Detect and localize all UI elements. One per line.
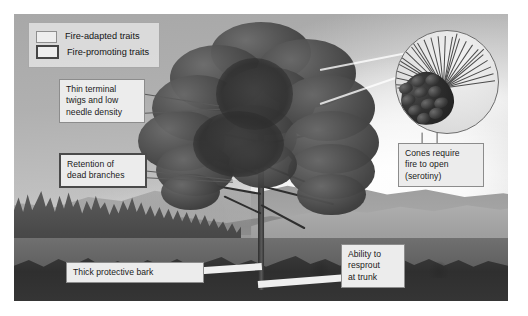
callout-thick-protective-bark[interactable]: Thick protective bark (66, 262, 204, 283)
callout-retention-dead-branches[interactable]: Retention of dead branches (59, 153, 147, 188)
legend-label-fire-adapted: Fire-adapted traits (65, 31, 140, 42)
callout-thin-terminal-twigs[interactable]: Thin terminal twigs and low needle densi… (59, 79, 145, 123)
pine-cone-magnifier (395, 30, 499, 134)
dead-branch (224, 195, 262, 214)
callout-cones-serotiny[interactable]: Cones require fire to open (serotiny) (398, 143, 484, 187)
legend: Fire-adapted traits Fire-promoting trait… (28, 22, 160, 68)
legend-swatch-fire-adapted (36, 31, 57, 43)
callout-resprout-at-trunk[interactable]: Ability to resprout at trunk (341, 244, 405, 288)
legend-item-fire-adapted: Fire-adapted traits (36, 31, 149, 43)
legend-item-fire-promoting: Fire-promoting traits (36, 45, 149, 59)
dead-branch (261, 204, 306, 229)
legend-swatch-fire-promoting (36, 45, 59, 59)
crown-foliage-lower (297, 174, 365, 215)
legend-label-fire-promoting: Fire-promoting traits (67, 47, 149, 58)
figure-root: Thin terminal twigs and low needle densi… (0, 0, 528, 316)
crown-shadow (193, 111, 284, 177)
